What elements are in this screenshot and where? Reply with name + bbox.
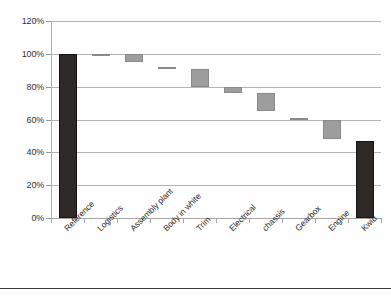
x-tick-mark <box>249 219 250 223</box>
x-tick-mark <box>381 219 382 223</box>
x-axis: ReferenceLogisticsAssembly plantBody in … <box>0 0 391 297</box>
x-tick-mark <box>150 219 151 223</box>
waterfall-chart-figure: 0%20%40%60%80%100%120% ReferenceLogistic… <box>0 0 391 297</box>
x-tick-label: Gearbox <box>293 203 323 233</box>
x-tick-mark <box>117 219 118 223</box>
y-tick-mark <box>46 54 51 55</box>
y-tick-mark <box>46 87 51 88</box>
x-tick-mark <box>183 219 184 223</box>
x-tick-label: Trim <box>194 214 213 233</box>
x-tick-label: Electrical <box>227 202 258 233</box>
x-tick-label: Logistics <box>95 203 125 233</box>
x-tick-mark <box>348 219 349 223</box>
x-tick-mark <box>51 219 52 223</box>
x-tick-label: Reference <box>62 199 96 233</box>
y-tick-mark <box>46 21 51 22</box>
bottom-divider <box>0 288 391 289</box>
y-tick-mark <box>46 185 51 186</box>
x-tick-mark <box>84 219 85 223</box>
y-tick-mark <box>46 120 51 121</box>
x-tick-mark <box>216 219 217 223</box>
x-tick-mark <box>315 219 316 223</box>
x-tick-label: Kwid <box>359 213 379 233</box>
y-tick-mark <box>46 152 51 153</box>
x-tick-mark <box>282 219 283 223</box>
